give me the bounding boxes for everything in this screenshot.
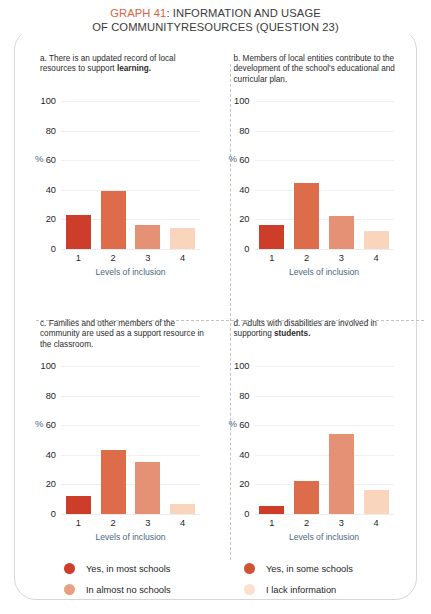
legend-item-label: Yes, in some schools bbox=[266, 564, 353, 574]
bar-slot bbox=[359, 101, 394, 249]
x-axis-ticks: 1234 bbox=[61, 518, 200, 528]
x-axis-title: Levels of inclusion bbox=[255, 267, 394, 277]
panel-title: c. Families and other members of the com… bbox=[40, 319, 206, 350]
y-axis-tick-label: 60 bbox=[239, 420, 249, 430]
y-axis-tick-label: 0 bbox=[51, 244, 56, 254]
bar[interactable] bbox=[364, 231, 389, 249]
y-axis-unit-label: % bbox=[229, 418, 238, 429]
bar-slot bbox=[289, 366, 324, 514]
bar[interactable] bbox=[294, 183, 319, 249]
y-axis-unit-label: % bbox=[35, 153, 44, 164]
bar-slot bbox=[324, 366, 359, 514]
y-axis-tick-label: 100 bbox=[234, 361, 250, 371]
bar-slot bbox=[131, 101, 166, 249]
x-axis-tick-label: 4 bbox=[165, 253, 200, 263]
x-axis-tick-label: 4 bbox=[359, 253, 394, 263]
bar[interactable] bbox=[101, 191, 126, 249]
y-axis-tick-label: 100 bbox=[40, 96, 56, 106]
legend-item[interactable]: I lack information bbox=[244, 579, 353, 600]
bar-slot bbox=[289, 101, 324, 249]
bar-slot bbox=[131, 366, 166, 514]
y-axis-unit-label: % bbox=[35, 418, 44, 429]
plot-area: 020406080100%1234Levels of inclusion bbox=[255, 101, 394, 249]
bar[interactable] bbox=[66, 496, 91, 515]
x-axis-tick-label: 4 bbox=[165, 518, 200, 528]
x-axis-tick-label: 1 bbox=[61, 253, 96, 263]
bar[interactable] bbox=[329, 216, 354, 249]
bar-slot bbox=[61, 101, 96, 249]
figure-title-line-1: GRAPH 41: INFORMATION AND USAGE bbox=[0, 6, 431, 20]
bar-series bbox=[61, 101, 200, 249]
bar[interactable] bbox=[329, 434, 354, 514]
x-axis-ticks: 1234 bbox=[255, 253, 394, 263]
bar[interactable] bbox=[364, 490, 389, 514]
legend-item[interactable]: In almost no schools bbox=[64, 579, 171, 600]
x-axis-tick-label: 2 bbox=[96, 518, 131, 528]
bar-slot bbox=[255, 366, 290, 514]
x-axis-tick-label: 2 bbox=[289, 518, 324, 528]
y-axis-tick-label: 20 bbox=[239, 479, 249, 489]
bar-slot bbox=[165, 366, 200, 514]
y-axis-tick-label: 100 bbox=[40, 361, 56, 371]
panel-title: d. Adults with disabilities are involved… bbox=[234, 319, 406, 340]
figure-title-line-2: OF COMMUNITYRESOURCES (QUESTION 23) bbox=[0, 20, 431, 34]
y-axis-tick-label: 60 bbox=[46, 155, 56, 165]
y-axis-tick-label: 60 bbox=[46, 420, 56, 430]
y-axis-tick-label: 80 bbox=[46, 126, 56, 136]
x-axis-tick-label: 1 bbox=[61, 518, 96, 528]
bar[interactable] bbox=[135, 462, 160, 514]
panel-grid: a. There is an updated record of local r… bbox=[14, 28, 417, 558]
x-axis-ticks: 1234 bbox=[255, 518, 394, 528]
legend: Yes, in most schools In almost no school… bbox=[14, 558, 417, 600]
x-axis-title: Levels of inclusion bbox=[255, 532, 394, 542]
x-axis-tick-label: 4 bbox=[359, 518, 394, 528]
x-axis-tick-label: 2 bbox=[289, 253, 324, 263]
legend-column-right: Yes, in some schools I lack information bbox=[244, 558, 353, 600]
y-axis-tick-label: 80 bbox=[239, 126, 249, 136]
legend-item-label: Yes, in most schools bbox=[86, 564, 170, 574]
bar-slot bbox=[359, 366, 394, 514]
bar[interactable] bbox=[66, 215, 91, 249]
x-axis-line bbox=[255, 249, 394, 250]
legend-item[interactable]: Yes, in some schools bbox=[244, 558, 353, 579]
graph-figure: GRAPH 41: INFORMATION AND USAGE OF COMMU… bbox=[0, 0, 431, 614]
bar[interactable] bbox=[135, 225, 160, 249]
x-axis-tick-label: 3 bbox=[324, 518, 359, 528]
y-axis-unit-label: % bbox=[229, 153, 238, 164]
legend-dot-icon bbox=[64, 563, 75, 574]
y-axis-tick-label: 40 bbox=[46, 450, 56, 460]
bar-series bbox=[255, 366, 394, 514]
bar[interactable] bbox=[170, 504, 195, 514]
panel-a: a. There is an updated record of local r… bbox=[14, 28, 216, 293]
bar-series bbox=[255, 101, 394, 249]
legend-item-label: I lack information bbox=[266, 585, 336, 595]
bar-series bbox=[61, 366, 200, 514]
panel-title-emphasis: learning. bbox=[117, 64, 151, 73]
legend-item[interactable]: Yes, in most schools bbox=[64, 558, 171, 579]
panel-title-emphasis: students. bbox=[274, 329, 310, 338]
figure-title-line-1-rest: : INFORMATION AND USAGE bbox=[166, 7, 320, 19]
bar-slot bbox=[165, 101, 200, 249]
x-axis-line bbox=[255, 514, 394, 515]
bar[interactable] bbox=[259, 506, 284, 514]
y-axis-tick-label: 40 bbox=[46, 185, 56, 195]
bar[interactable] bbox=[259, 225, 284, 249]
legend-dot-icon bbox=[244, 584, 255, 595]
figure-title: GRAPH 41: INFORMATION AND USAGE OF COMMU… bbox=[0, 6, 431, 34]
panel-title: a. There is an updated record of local r… bbox=[40, 54, 206, 75]
y-axis-tick-label: 20 bbox=[239, 214, 249, 224]
x-axis-tick-label: 3 bbox=[324, 253, 359, 263]
y-axis-tick-label: 100 bbox=[234, 96, 250, 106]
x-axis-title: Levels of inclusion bbox=[61, 267, 200, 277]
bar-slot bbox=[255, 101, 290, 249]
y-axis-tick-label: 80 bbox=[46, 391, 56, 401]
bar[interactable] bbox=[170, 228, 195, 249]
bar[interactable] bbox=[101, 450, 126, 514]
panel-c: c. Families and other members of the com… bbox=[14, 293, 216, 558]
panel-title: b. Members of local entities contribute … bbox=[234, 54, 406, 85]
bar[interactable] bbox=[294, 481, 319, 514]
x-axis-title: Levels of inclusion bbox=[61, 532, 200, 542]
x-axis-tick-label: 3 bbox=[131, 253, 166, 263]
plot-area: 020406080100%1234Levels of inclusion bbox=[61, 101, 200, 249]
y-axis-tick-label: 40 bbox=[239, 450, 249, 460]
